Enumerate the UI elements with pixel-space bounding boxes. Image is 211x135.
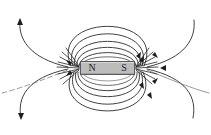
- outer-line-top-left: [20, 20, 68, 67]
- arrowhead-bottom-left: [18, 113, 24, 120]
- lower-loop-6: [69, 72, 146, 111]
- outer-line-bottom-right: [147, 69, 194, 118]
- arrowhead-right-mid: [160, 65, 166, 71]
- north-stub-4: [57, 67, 79, 68]
- outer-line-bottom-left: [20, 69, 68, 118]
- lower-field-loops: [69, 72, 146, 111]
- arrowhead-top-left: [17, 18, 23, 25]
- north-pole-label: N: [86, 62, 98, 74]
- south-pole-label: S: [118, 62, 130, 74]
- outer-line-top-right: [147, 20, 194, 67]
- south-stub-4: [136, 67, 158, 68]
- bar-magnet: N S: [80, 61, 135, 75]
- bar-magnet-field-diagram: N S: [0, 0, 211, 135]
- lower-loop-5: [72, 72, 142, 104]
- arrowhead-lower-loop-right-2: [147, 92, 152, 99]
